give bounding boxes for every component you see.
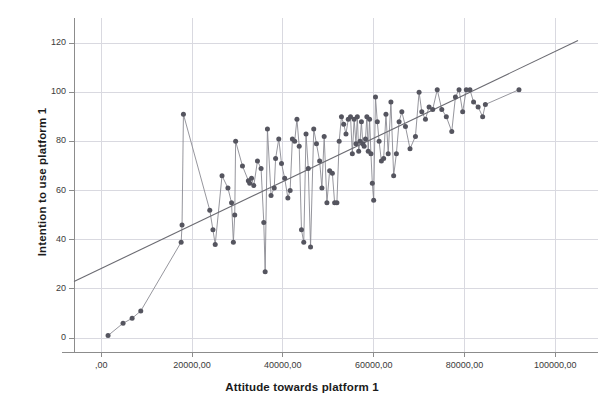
data-point-marker (279, 161, 284, 166)
plot-canvas (0, 0, 604, 410)
data-point-marker (269, 193, 274, 198)
data-point-marker (371, 198, 376, 203)
data-point-marker (356, 149, 361, 154)
data-point-marker (311, 127, 316, 132)
data-point-marker (370, 181, 375, 186)
data-point-marker (231, 240, 236, 245)
data-point-marker (460, 109, 465, 114)
data-point-marker (476, 104, 481, 109)
data-point-marker (375, 119, 380, 124)
data-point-marker (130, 316, 135, 321)
data-point-marker (367, 117, 372, 122)
data-point-marker (255, 159, 260, 164)
y-tick-label: 0 (26, 332, 66, 342)
y-tick-label: 80 (26, 135, 66, 145)
data-point-marker (288, 188, 293, 193)
data-point-marker (317, 159, 322, 164)
data-point-marker (297, 144, 302, 149)
data-point-marker (272, 186, 277, 191)
data-point-marker (423, 117, 428, 122)
data-point-marker (430, 107, 435, 112)
data-point-marker (408, 146, 413, 151)
data-point-marker (516, 87, 521, 92)
scatter-plot-figure: Intention to use platform 1 Attitude tow… (0, 0, 604, 410)
data-point-marker (373, 95, 378, 100)
data-point-marker (220, 173, 225, 178)
data-point-marker (413, 134, 418, 139)
y-tick-label: 120 (26, 37, 66, 47)
data-point-marker (210, 227, 215, 232)
data-point-marker (330, 171, 335, 176)
data-point-marker (394, 151, 399, 156)
data-point-marker (383, 112, 388, 117)
data-point-marker (457, 87, 462, 92)
data-point-marker (276, 136, 281, 141)
data-point-marker (324, 200, 329, 205)
data-point-marker (213, 242, 218, 247)
data-point-marker (106, 333, 111, 338)
data-point-marker (294, 117, 299, 122)
data-point-marker (381, 156, 386, 161)
data-point-marker (350, 151, 355, 156)
data-point-marker (319, 186, 324, 191)
data-point-marker (444, 114, 449, 119)
data-point-marker (233, 139, 238, 144)
data-point-marker (362, 144, 367, 149)
data-point-marker (299, 227, 304, 232)
data-point-marker (399, 109, 404, 114)
data-point-marker (377, 139, 382, 144)
data-point-marker (368, 151, 373, 156)
data-point-marker (259, 166, 264, 171)
data-point-marker (483, 102, 488, 107)
data-point-marker (207, 208, 212, 213)
data-point-marker (386, 151, 391, 156)
data-point-marker (314, 141, 319, 146)
x-tick-label: 80000,00 (419, 360, 509, 370)
data-point-marker (449, 129, 454, 134)
data-points (106, 87, 522, 338)
data-point-marker (339, 114, 344, 119)
data-point-marker (308, 245, 313, 250)
data-point-marker (417, 90, 422, 95)
data-point-marker (285, 195, 290, 200)
y-tick-label: 60 (26, 185, 66, 195)
data-point-marker (471, 100, 476, 105)
data-point-marker (292, 139, 297, 144)
data-point-marker (304, 131, 309, 136)
data-point-marker (179, 240, 184, 245)
data-point-marker (341, 122, 346, 127)
data-point-marker (181, 112, 186, 117)
axis-lines (62, 18, 598, 352)
data-point-marker (337, 139, 342, 144)
data-point-marker (359, 119, 364, 124)
data-point-marker (419, 109, 424, 114)
data-point-marker (306, 166, 311, 171)
data-point-marker (439, 107, 444, 112)
y-tick-label: 20 (26, 283, 66, 293)
x-tick-label: ,00 (56, 360, 146, 370)
data-point-marker (263, 269, 268, 274)
x-tick-label: 20000,00 (147, 360, 237, 370)
data-point-marker (261, 220, 266, 225)
data-point-marker (397, 119, 402, 124)
data-point-marker (403, 124, 408, 129)
data-point-marker (391, 173, 396, 178)
data-point-marker (265, 127, 270, 132)
data-point-marker (232, 213, 237, 218)
data-point-marker (240, 163, 245, 168)
data-point-marker (343, 131, 348, 136)
data-point-marker (138, 308, 143, 313)
data-point-marker (301, 240, 306, 245)
data-point-marker (453, 95, 458, 100)
fit-line (74, 41, 578, 282)
data-point-marker (229, 200, 234, 205)
data-point-marker (388, 100, 393, 105)
data-point-marker (435, 87, 440, 92)
data-point-marker (467, 87, 472, 92)
y-tick-label: 40 (26, 234, 66, 244)
data-point-marker (273, 156, 278, 161)
y-tick-label: 100 (26, 86, 66, 96)
data-point-marker (355, 114, 360, 119)
data-point-marker (480, 114, 485, 119)
x-tick-label: 100000,00 (510, 360, 600, 370)
